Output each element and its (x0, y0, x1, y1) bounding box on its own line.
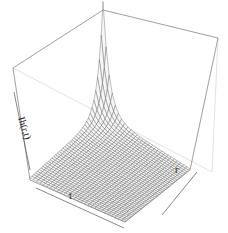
z-axis-label: Ih(r,t) (15, 115, 34, 141)
x-axis-label: t (69, 190, 72, 201)
surface-plot: Ih(r,t) t r (0, 0, 228, 233)
